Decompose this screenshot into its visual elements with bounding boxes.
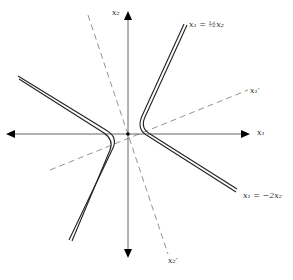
x1-axis-left-arrow-icon: [6, 130, 15, 138]
x2-axis-up-arrow-icon: [124, 11, 132, 20]
asymptote-label-2: x₁ = −2x₂: [243, 191, 282, 200]
x1-axis-right-arrow-icon: [241, 130, 250, 138]
x2-prime-label: x₂′: [168, 256, 178, 265]
hyperbola-left-branch: [18, 76, 114, 241]
x1-prime-label: x₁′: [250, 86, 260, 95]
x1-prime-axis: [50, 90, 248, 170]
x2-axis-down-arrow-icon: [124, 249, 132, 258]
x1-axis-label: x₁: [257, 128, 265, 137]
hyperbola-diagram: [0, 0, 293, 280]
hyperbola-right-branch: [140, 24, 237, 192]
asymptote-label-1: x₁ = ½x₂: [189, 20, 224, 29]
x2-axis-label: x₂: [112, 8, 120, 17]
origin-point: [126, 132, 130, 136]
